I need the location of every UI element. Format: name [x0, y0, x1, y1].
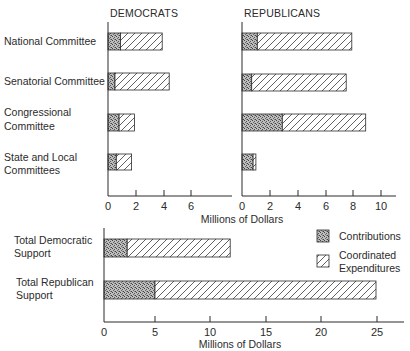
- bar-total-rep-coordinated: [155, 281, 376, 299]
- bar-total-dem-coordinated: [127, 239, 230, 257]
- row-label-congressional-2: Committee: [4, 120, 55, 132]
- row-label-congressional: Congressional: [4, 106, 71, 118]
- dem-tick-0: 0: [105, 200, 111, 212]
- rep-tick-2: 2: [267, 200, 273, 212]
- bar-dem-national-coordinated: [121, 33, 163, 50]
- legend-coordinated-swatch: [317, 255, 329, 267]
- rep-tick-6: 6: [323, 200, 329, 212]
- campaign-support-chart: DEMOCRATS REPUBLICANS National Committee…: [0, 0, 410, 351]
- row-label-total-dem-2: Support: [14, 247, 51, 259]
- bar-dem-congressional-contributions: [108, 114, 119, 131]
- legend-coordinated-label: Coordinated: [339, 249, 396, 261]
- legend-contributions-swatch: [317, 230, 329, 242]
- bar-total-dem-contributions: [104, 239, 127, 257]
- bar-dem-national-contributions: [108, 33, 121, 50]
- row-label-senatorial: Senatorial Committee: [4, 75, 105, 87]
- totals-tick-20: 20: [315, 326, 327, 338]
- dem-tick-6: 6: [188, 200, 194, 212]
- totals-tick-15: 15: [260, 326, 272, 338]
- totals-panel: 0 5 10 15 20 25 Millions of Dollars: [101, 228, 404, 350]
- bar-dem-state-coordinated: [116, 154, 131, 170]
- totals-x-axis-label: Millions of Dollars: [199, 338, 281, 350]
- totals-tick-10: 10: [204, 326, 216, 338]
- bar-total-rep-contributions: [104, 281, 155, 299]
- bar-rep-national-coordinated: [257, 33, 352, 50]
- rep-tick-10: 10: [375, 200, 387, 212]
- top-x-axis-label: Millions of Dollars: [201, 213, 283, 225]
- bar-rep-congressional-coordinated: [282, 114, 365, 131]
- bar-dem-senatorial-coordinated: [115, 73, 169, 90]
- republicans-panel: 0 2 4 6 8 10: [239, 22, 396, 212]
- bar-dem-congressional-coordinated: [119, 114, 134, 131]
- row-label-national: National Committee: [4, 35, 96, 47]
- legend: Contributions Coordinated Expenditures: [317, 230, 401, 274]
- bar-rep-state-contributions: [242, 154, 253, 170]
- row-label-total-rep: Total Republican: [16, 276, 94, 288]
- dem-tick-2: 2: [133, 200, 139, 212]
- republicans-header: REPUBLICANS: [244, 7, 320, 19]
- totals-tick-25: 25: [371, 326, 383, 338]
- totals-tick-5: 5: [152, 326, 158, 338]
- democrats-header: DEMOCRATS: [110, 7, 178, 19]
- row-label-state-local-2: Committees: [4, 164, 60, 176]
- rep-tick-0: 0: [239, 200, 245, 212]
- bar-rep-senatorial-coordinated: [252, 74, 347, 91]
- bar-rep-national-contributions: [242, 33, 257, 50]
- rep-tick-4: 4: [295, 200, 301, 212]
- bar-rep-congressional-contributions: [242, 114, 282, 131]
- rep-tick-8: 8: [350, 200, 356, 212]
- bar-rep-senatorial-contributions: [242, 74, 252, 91]
- totals-tick-0: 0: [101, 326, 107, 338]
- row-label-state-local: State and Local: [4, 151, 77, 163]
- dem-tick-4: 4: [161, 200, 167, 212]
- bar-rep-state-coordinated: [253, 154, 256, 170]
- bar-dem-senatorial-contributions: [108, 73, 115, 90]
- legend-coordinated-label-2: Expenditures: [339, 262, 400, 274]
- democrats-panel: 0 2 4 6: [105, 22, 232, 212]
- row-label-total-dem: Total Democratic: [14, 234, 92, 246]
- bar-dem-state-contributions: [108, 154, 116, 170]
- legend-contributions-label: Contributions: [339, 230, 401, 242]
- row-label-total-rep-2: Support: [16, 289, 53, 301]
